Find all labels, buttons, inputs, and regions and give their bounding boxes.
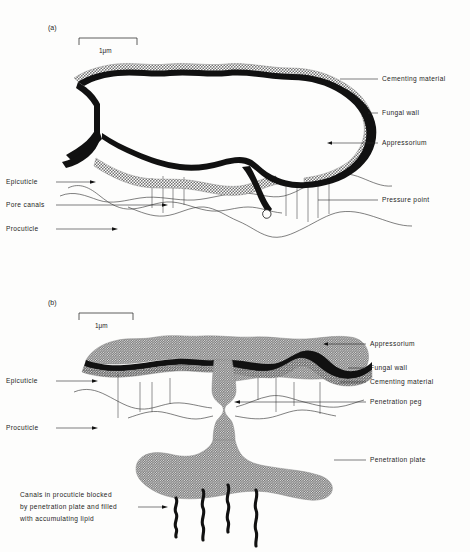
panel-b-left-leaders — [56, 379, 98, 430]
label-penetration-peg-b: Penetration peg — [370, 398, 422, 406]
panel-a-scale-bar: 1μm — [79, 38, 137, 55]
hypha-fork-a — [66, 82, 102, 161]
label-fungal-wall-b: Fungal wall — [370, 364, 407, 372]
label-epicuticle-b: Epicuticle — [6, 377, 38, 385]
fungal-appressorium-diagram: (a) 1μm — [0, 0, 470, 552]
label-cementing-material-a: Cementing material — [382, 75, 446, 83]
panel-a: (a) 1μm — [6, 24, 446, 237]
label-penetration-plate-b: Penetration plate — [370, 456, 426, 464]
epicuticle-line-b — [74, 389, 212, 409]
panel-b-caption-leader — [138, 505, 168, 509]
epicuticle-line-b-right — [236, 396, 364, 408]
panel-b-scale-label: 1μm — [95, 322, 108, 330]
penetration-plate-b — [136, 440, 332, 500]
procuticle-line-b-right — [235, 410, 336, 419]
label-procuticle-a: Procuticle — [6, 225, 38, 232]
figure-page: (a) 1μm — [0, 0, 470, 552]
fungal-wall-a — [78, 69, 376, 188]
pressure-point-pore-a — [263, 210, 271, 219]
label-procuticle-b: Procuticle — [6, 424, 38, 431]
label-appressorium-a: Appressorium — [382, 139, 427, 147]
label-epicuticle-a: Epicuticle — [6, 178, 38, 186]
label-fungal-wall-a: Fungal wall — [382, 109, 419, 117]
panel-b-label: (b) — [48, 299, 57, 307]
panel-b: (b) 1μm — [6, 299, 434, 546]
label-pressure-point-a: Pressure point — [382, 196, 429, 204]
caption-line-3: with accumulating lipid — [19, 515, 94, 523]
panel-b-scale-bar: 1μm — [79, 313, 133, 330]
label-pore-canals-a: Pore canals — [6, 201, 45, 208]
panel-a-label: (a) — [48, 24, 57, 32]
procuticle-line-b — [128, 411, 213, 419]
caption-line-2: by penetration plate and filled — [20, 503, 117, 511]
label-appressorium-b: Appressorium — [370, 340, 415, 348]
label-cementing-material-b: Cementing material — [370, 378, 434, 386]
caption-line-1: Canals in procuticle blocked — [20, 491, 112, 499]
penetration-peg-b — [212, 360, 236, 440]
panel-a-scale-label: 1μm — [99, 47, 112, 55]
